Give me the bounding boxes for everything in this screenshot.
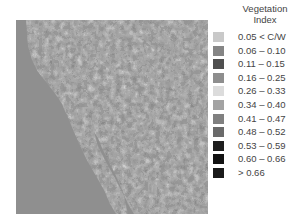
vegetation-map <box>16 20 208 214</box>
legend-title: Vegetation Index <box>236 3 294 25</box>
legend-swatch <box>213 114 224 124</box>
legend-swatch <box>213 168 224 178</box>
legend-swatch <box>213 32 224 42</box>
legend-label: 0.16 – 0.25 <box>238 72 286 84</box>
legend-label: 0.06 – 0.10 <box>238 45 286 57</box>
legend-swatch <box>213 154 224 164</box>
legend-label: 0.53 – 0.59 <box>238 140 286 152</box>
legend-title-line1: Vegetation <box>236 3 294 14</box>
legend-label: > 0.66 <box>238 167 265 179</box>
legend-label: 0.48 – 0.52 <box>238 126 286 138</box>
legend-label: 0.11 – 0.15 <box>238 58 285 70</box>
legend-swatch <box>213 46 224 56</box>
legend-label: 0.05 < C/W <box>238 31 286 43</box>
legend-label: 0.26 – 0.33 <box>238 85 286 97</box>
legend-swatch <box>213 127 224 137</box>
legend-label: 0.34 – 0.40 <box>238 99 286 111</box>
legend-swatch <box>213 141 224 151</box>
legend-swatch <box>213 73 224 83</box>
legend-swatch <box>213 59 224 69</box>
map-image <box>16 20 208 214</box>
legend-label: 0.60 – 0.66 <box>238 153 286 165</box>
legend-label: 0.41 – 0.47 <box>238 113 286 125</box>
legend-title-line2: Index <box>236 14 294 25</box>
legend-swatch <box>213 100 224 110</box>
legend-swatch <box>213 86 224 96</box>
